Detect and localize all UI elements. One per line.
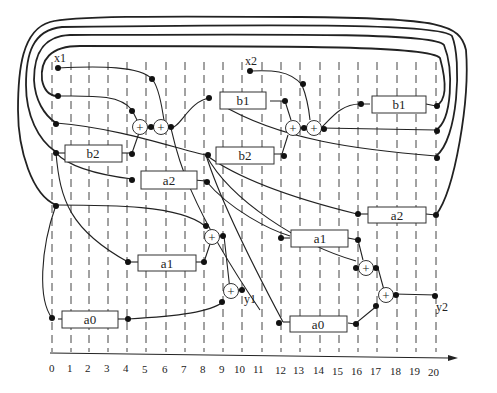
tick-label: 4: [123, 362, 129, 374]
tick-label: 0: [49, 362, 55, 374]
tick-label: 1: [67, 362, 73, 374]
svg-text:+: +: [382, 288, 389, 303]
adder-1: +: [133, 120, 148, 136]
svg-text:+: +: [227, 284, 234, 299]
svg-text:a0: a0: [84, 312, 96, 327]
output-label-y2: y2: [436, 300, 448, 314]
tick-label: 14: [313, 364, 325, 376]
tick-label: 16: [351, 365, 363, 377]
adder-7: +: [359, 261, 374, 277]
svg-text:a0: a0: [312, 317, 324, 332]
svg-text:b2: b2: [239, 148, 252, 163]
tick-label: 3: [104, 362, 110, 374]
svg-text:a1: a1: [314, 231, 326, 246]
svg-text:+: +: [136, 120, 143, 135]
tick-label: 9: [219, 363, 225, 375]
adder-6: +: [224, 284, 239, 300]
tick-label: 5: [142, 363, 148, 375]
svg-text:b1: b1: [237, 93, 250, 108]
multiplier-b1-2: b1: [372, 96, 426, 113]
tick-label: 12: [275, 364, 286, 376]
multiplier-a0-1: a0: [62, 311, 118, 328]
svg-text:a2: a2: [163, 173, 175, 188]
tick-label: 8: [200, 363, 206, 375]
tick-label: 11: [253, 363, 264, 375]
tick-label: 20: [428, 366, 440, 378]
svg-text:+: +: [208, 230, 215, 245]
tick-label: 2: [85, 362, 91, 374]
multiplier-a2-2: a2: [368, 207, 426, 223]
adder-4: +: [307, 121, 322, 137]
multiplier-b2-1: b2: [65, 145, 122, 162]
tick-label: 10: [234, 363, 246, 375]
tick-label: 7: [181, 363, 187, 375]
adder-3: +: [286, 121, 301, 137]
tick-label: 6: [162, 363, 168, 375]
tick-label: 15: [332, 365, 344, 377]
adder-5: +: [205, 230, 220, 246]
input-label-x1: x1: [54, 51, 66, 65]
adder-2: +: [154, 120, 169, 136]
svg-text:a2: a2: [391, 208, 403, 223]
svg-text:+: +: [157, 120, 164, 135]
input-label-x2: x2: [245, 54, 257, 68]
io-labels: x1 x2 y1 y2: [54, 51, 448, 314]
svg-text:+: +: [289, 121, 296, 136]
tick-label: 17: [370, 365, 382, 377]
adder-8: +: [379, 288, 394, 304]
multiplier-a1-1: a1: [138, 255, 196, 271]
svg-text:+: +: [310, 121, 317, 136]
tick-label: 18: [390, 365, 402, 377]
multiplier-a2-1: a2: [141, 171, 197, 189]
multiplier-b2-2: b2: [216, 147, 274, 164]
svg-text:b1: b1: [393, 97, 406, 112]
axis-tick-labels: 0 1 2 3 4 5 6 7 8 9 10 11 12 13 14 15 16…: [49, 362, 440, 378]
tick-label: 13: [293, 364, 305, 376]
multiplier-a0-2: a0: [290, 316, 347, 332]
time-axis: [50, 353, 458, 361]
svg-text:a1: a1: [161, 256, 173, 271]
svg-text:+: +: [362, 261, 369, 276]
svg-text:b2: b2: [87, 146, 100, 161]
tick-label: 19: [409, 365, 421, 377]
dataflow-diagram: 0 1 2 3 4 5 6 7 8 9 10 11 12 13 14 15 16…: [0, 0, 497, 393]
output-label-y1: y1: [244, 292, 256, 306]
multiplier-a1-2: a1: [291, 230, 348, 247]
multiplier-b1-1: b1: [220, 92, 266, 109]
